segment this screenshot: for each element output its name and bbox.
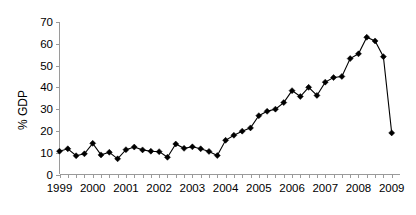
- data-point-marker: [198, 146, 204, 152]
- y-axis-title-text: % GDP: [16, 90, 30, 130]
- x-axis-tick-labels: 1999200020012002200320042005200620072008…: [47, 182, 405, 194]
- x-tick-label: 2000: [80, 182, 106, 194]
- data-point-marker: [264, 108, 270, 114]
- x-tick-label: 2004: [213, 182, 239, 194]
- y-tick-label: 40: [40, 81, 53, 93]
- data-point-marker: [380, 54, 386, 60]
- y-tick-label: 50: [40, 60, 53, 72]
- y-tick-label: 70: [40, 16, 53, 28]
- y-tick-label: 0: [47, 169, 53, 181]
- x-tick-label: 2001: [113, 182, 139, 194]
- x-tick-label: 2007: [312, 182, 338, 194]
- x-tick-label: 2008: [346, 182, 372, 194]
- y-axis-tick-labels: 010203040506070: [40, 16, 53, 181]
- data-point-marker: [256, 113, 262, 119]
- data-point-marker: [331, 75, 337, 81]
- data-point-marker: [164, 154, 170, 160]
- y-tick-label: 20: [40, 125, 53, 137]
- data-point-marker: [206, 148, 212, 154]
- data-point-marker: [355, 51, 361, 57]
- chart-figure: % GDP 010203040506070 199920002001200220…: [0, 0, 416, 215]
- data-point-marker: [140, 147, 146, 153]
- y-tick-label: 10: [40, 147, 53, 159]
- data-point-marker: [248, 125, 254, 131]
- data-point-marker: [372, 38, 378, 44]
- data-point-marker: [189, 144, 195, 150]
- data-point-marker: [131, 144, 137, 150]
- data-point-marker: [223, 137, 229, 143]
- data-point-marker: [364, 34, 370, 40]
- data-point-marker: [389, 130, 395, 136]
- data-point-marker: [322, 79, 328, 85]
- x-tick-label: 2003: [180, 182, 206, 194]
- data-point-marker: [181, 145, 187, 151]
- data-point-marker: [214, 153, 220, 159]
- x-tick-label: 2006: [279, 182, 305, 194]
- y-axis-title: % GDP: [16, 90, 30, 130]
- data-point-marker: [339, 73, 345, 79]
- line-chart: % GDP 010203040506070 199920002001200220…: [0, 0, 416, 215]
- x-tick-label: 1999: [47, 182, 73, 194]
- data-point-marker: [239, 128, 245, 134]
- x-tick-label: 2002: [146, 182, 172, 194]
- x-tick-label: 2009: [379, 182, 405, 194]
- data-point-markers: [57, 34, 395, 162]
- data-point-marker: [173, 141, 179, 147]
- data-point-marker: [347, 56, 353, 62]
- x-axis-tick-marks: [61, 175, 393, 179]
- data-point-marker: [148, 148, 154, 154]
- y-tick-label: 60: [40, 38, 53, 50]
- x-tick-label: 2005: [246, 182, 272, 194]
- y-tick-label: 30: [40, 103, 53, 115]
- data-point-marker: [231, 132, 237, 138]
